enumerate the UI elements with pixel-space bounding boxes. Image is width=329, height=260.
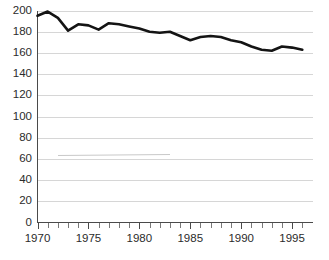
y-tick-label-160: 160 [13, 46, 32, 58]
x-axis-ticks [39, 223, 303, 229]
y-tick-label-80: 80 [19, 131, 32, 143]
data-series-group [38, 12, 303, 51]
x-tick-label-1970: 1970 [25, 232, 51, 244]
y-tick-label-120: 120 [13, 88, 32, 100]
x-axis-tick-labels: 197019751980198519901995 [25, 232, 305, 244]
faint-horizontal-artifact [58, 155, 170, 156]
x-tick-label-1990: 1990 [228, 232, 254, 244]
y-tick-label-200: 200 [13, 4, 32, 16]
y-axis-tick-labels: 020406080100120140160180200 [13, 4, 32, 228]
y-tick-label-0: 0 [26, 216, 32, 228]
x-tick-label-1985: 1985 [177, 232, 203, 244]
scan-artifact-line [58, 155, 170, 156]
y-tick-label-60: 60 [19, 152, 32, 164]
gridlines [38, 12, 313, 202]
y-tick-label-20: 20 [19, 194, 32, 206]
line-chart: 020406080100120140160180200 197019751980… [0, 0, 329, 260]
y-tick-label-180: 180 [13, 25, 32, 37]
axis-lines [38, 11, 313, 223]
y-tick-label-100: 100 [13, 110, 32, 122]
x-tick-label-1995: 1995 [279, 232, 305, 244]
chart-container: 020406080100120140160180200 197019751980… [0, 0, 329, 260]
data-series-1 [38, 12, 303, 51]
y-tick-label-40: 40 [19, 173, 32, 185]
x-tick-label-1975: 1975 [76, 232, 102, 244]
y-tick-label-140: 140 [13, 67, 32, 79]
x-tick-label-1980: 1980 [127, 232, 153, 244]
